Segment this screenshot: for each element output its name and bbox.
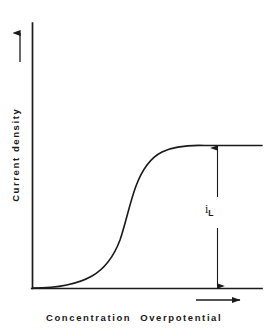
limiting-current-subscript: L — [208, 208, 213, 218]
x-axis-title: ConcentrationOverpotential — [46, 313, 222, 323]
x-axis-title-part2: Overpotential — [140, 312, 222, 323]
y-axis-title: Current density — [11, 95, 21, 215]
polarization-curve — [33, 145, 262, 288]
x-axis-title-part1: Concentration — [46, 312, 131, 323]
limiting-current-label: iL — [205, 203, 214, 218]
plot-canvas — [0, 0, 280, 336]
polarization-curve-figure: iL Current density ConcentrationOverpote… — [0, 0, 280, 336]
